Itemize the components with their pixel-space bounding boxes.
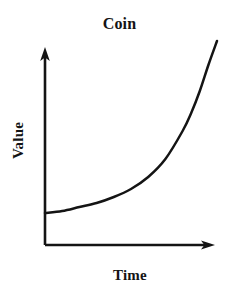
y-axis-label: Value — [9, 99, 28, 183]
axes-group — [40, 47, 215, 250]
plot-area — [0, 0, 239, 296]
data-series-group — [45, 41, 217, 213]
exponential-curve — [45, 41, 217, 213]
coin-value-chart: Coin Value Time — [0, 0, 239, 296]
x-axis-label: Time — [45, 266, 215, 285]
